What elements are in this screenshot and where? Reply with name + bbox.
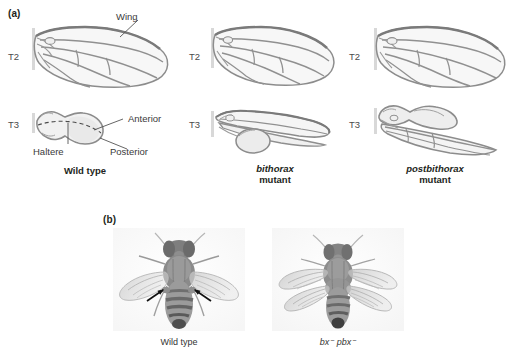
segment-label-t2-postbithorax: T2	[349, 51, 360, 62]
caption-bithorax: bithorax mutant	[205, 163, 345, 185]
caption-postbithorax-line2: mutant	[360, 174, 510, 185]
photo-bx-pbx-fly	[272, 228, 404, 331]
wing-drawing-t2-postbithorax	[372, 22, 507, 92]
photo-caption-bx-pbx-text: bx⁻ pbx⁻	[320, 337, 357, 347]
segment-label-t2-bithorax: T2	[189, 51, 200, 62]
caption-postbithorax: postbithorax mutant	[360, 163, 510, 185]
caption-bithorax-line1: bithorax	[256, 163, 293, 174]
caption-postbithorax-line1: postbithorax	[406, 163, 464, 174]
caption-wildtype-line1: Wild type	[64, 165, 106, 176]
segment-label-t3-postbithorax: T3	[349, 119, 360, 130]
haltere-drawing-t3-bithorax	[209, 103, 339, 158]
panel-a-letter: (a)	[8, 8, 21, 19]
wing-drawing-t2-wildtype	[30, 22, 180, 92]
segment-label-t3-bithorax: T3	[189, 119, 200, 130]
haltere-label: Haltere	[33, 146, 64, 157]
anterior-leader-line	[93, 116, 131, 132]
photo-caption-wild-type: Wild type	[119, 337, 239, 347]
segment-label-t3-wildtype: T3	[8, 119, 19, 130]
segment-label-t2-wildtype: T2	[8, 51, 19, 62]
haltere-drawing-t3-postbithorax	[372, 100, 512, 162]
wing-drawing-t2-bithorax	[209, 22, 339, 92]
figure-root: (a) T2 T3 Win	[0, 0, 513, 363]
caption-bithorax-line2: mutant	[205, 174, 345, 185]
caption-wildtype: Wild type	[20, 165, 150, 176]
haltere-leader-line	[63, 122, 75, 146]
panel-b-letter: (b)	[103, 214, 116, 225]
wing-label: Wing	[116, 11, 138, 22]
photo-caption-bx-pbx: bx⁻ pbx⁻	[278, 337, 398, 347]
anterior-label: Anterior	[128, 113, 161, 124]
photo-wild-type-fly	[113, 228, 245, 331]
posterior-label: Posterior	[110, 146, 148, 157]
